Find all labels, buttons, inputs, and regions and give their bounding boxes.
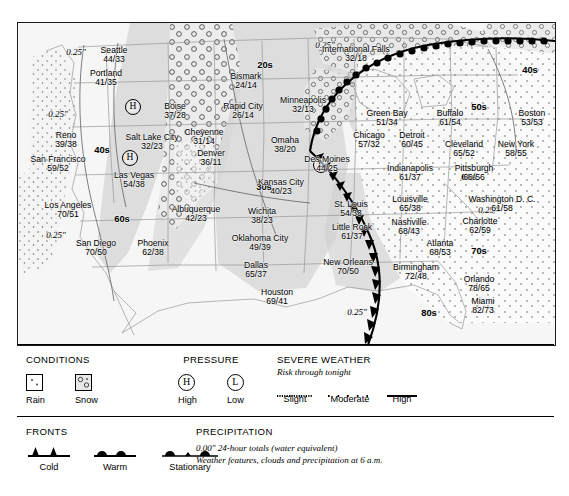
temp-band-label: 50s xyxy=(471,101,487,112)
temp-band-label: 60s xyxy=(114,213,130,224)
city-label: New Orleans70/50 xyxy=(323,258,373,277)
city-temperatures: 36/11 xyxy=(197,158,225,167)
city-label: Omaha38/20 xyxy=(271,136,299,155)
severe-title: SEVERE WEATHER xyxy=(277,354,417,365)
city-temperatures: 62/38 xyxy=(137,248,168,257)
city-temperatures: 59/52 xyxy=(31,164,86,173)
city-label: Detroit60/45 xyxy=(399,131,424,150)
city-label: Minneapolis32/13 xyxy=(280,96,326,115)
city-temperatures: 54/38 xyxy=(114,180,154,189)
city-label: Kansas City40/23 xyxy=(258,178,304,197)
legend-divider-middle xyxy=(17,416,554,417)
city-temperatures: 44/25 xyxy=(304,164,349,173)
city-label: Rapid City26/14 xyxy=(223,102,263,121)
precip-amount-label: 0.25" xyxy=(46,230,66,240)
city-label: Reno39/38 xyxy=(55,131,77,150)
warm-front-symbol-icon xyxy=(92,444,138,462)
low-label: Low xyxy=(227,395,244,405)
city-temperatures: 78/65 xyxy=(464,284,495,293)
severe-subtitle: Risk through tonight xyxy=(277,367,417,377)
snow-label: Snow xyxy=(75,395,98,405)
pressure-title: PRESSURE xyxy=(178,354,244,365)
city-label: Louisville65/38 xyxy=(392,195,427,214)
city-label: Seattle44/33 xyxy=(101,46,128,65)
city-label: New York58/55 xyxy=(498,140,534,159)
legend-fronts-section: FRONTS Cold xyxy=(26,426,222,472)
city-label: Orlando78/65 xyxy=(464,275,495,294)
city-temperatures: 32/13 xyxy=(280,105,326,114)
city-label: Houston69/41 xyxy=(261,288,293,307)
city-temperatures: 70/50 xyxy=(323,267,373,276)
city-temperatures: 40/23 xyxy=(258,187,304,196)
weather-map-page: H H L 40s 60s 30s 20s 40s 50s 60s 70s 80… xyxy=(0,0,569,496)
legend-item-snow: Snow xyxy=(75,374,98,405)
city-temperatures: 69/41 xyxy=(261,297,293,306)
legend-item-warm-front: Warm xyxy=(92,444,138,472)
city-temperatures: 39/38 xyxy=(55,140,77,149)
city-label: Portland41/35 xyxy=(90,69,122,88)
temp-band-label: 40s xyxy=(94,144,110,155)
city-temperatures: 66/56 xyxy=(455,173,494,182)
cold-front-symbol-icon xyxy=(26,444,72,462)
city-temperatures: 26/14 xyxy=(223,111,263,120)
rain-label: Rain xyxy=(26,395,45,405)
high-label: High xyxy=(178,395,197,405)
legend-precipitation-section: PRECIPITATION 0.00" 24-hour totals (wate… xyxy=(196,426,382,465)
slight-risk-icon xyxy=(277,386,313,394)
moderate-risk-icon xyxy=(324,386,376,394)
city-temperatures: 82/73 xyxy=(472,306,495,315)
city-temperatures: 31/14 xyxy=(184,137,223,146)
city-temperatures: 61/37 xyxy=(332,232,372,241)
city-label: Phoenix62/38 xyxy=(137,239,168,258)
city-temperatures: 44/33 xyxy=(101,55,128,64)
city-temperatures: 37/28 xyxy=(164,111,186,120)
city-label: San Francisco59/52 xyxy=(31,155,86,174)
city-temperatures: 65/52 xyxy=(445,149,483,158)
city-label: Des Moines44/25 xyxy=(304,155,349,174)
city-label: Charlotte62/59 xyxy=(463,217,498,236)
city-temperatures: 65/38 xyxy=(392,204,427,213)
city-label: Washington D. C.61/58 xyxy=(468,195,535,214)
city-label: Salt Lake City32/23 xyxy=(125,133,178,152)
legend-severe-section: SEVERE WEATHER Risk through tonight Slig… xyxy=(277,354,417,404)
city-label: Indianapolis61/37 xyxy=(387,164,433,183)
city-label: Cleveland65/52 xyxy=(445,140,483,159)
map-pressure-high-2: H xyxy=(122,150,138,166)
city-label: Wichita38/23 xyxy=(248,207,276,226)
city-label: Oklahoma City49/39 xyxy=(232,234,288,253)
city-label: Boston53/53 xyxy=(519,109,546,128)
snow-swatch-icon xyxy=(75,374,92,391)
legend-item-high-risk: High xyxy=(387,386,417,404)
city-label: Nashville68/43 xyxy=(392,218,427,237)
city-temperatures: 53/53 xyxy=(519,118,546,127)
city-temperatures: 68/43 xyxy=(392,227,427,236)
city-temperatures: 61/37 xyxy=(387,173,433,182)
precip-amount-label: 0.25" xyxy=(347,307,367,317)
city-temperatures: 68/53 xyxy=(427,248,454,257)
high-pressure-icon: H xyxy=(178,374,195,391)
city-label: Atlanta68/53 xyxy=(427,239,454,258)
precip-amount-label: 0.25" xyxy=(48,109,68,119)
legend-item-low: L Low xyxy=(227,374,244,405)
precipitation-line-1: 0.00" 24-hour totals (water equivalent) xyxy=(196,443,382,453)
city-temperatures: 61/54 xyxy=(437,118,464,127)
city-temperatures: 42/23 xyxy=(172,214,221,223)
city-label: Bismark24/14 xyxy=(230,72,261,91)
temp-band-label: 70s xyxy=(471,245,487,256)
city-label: Buffalo61/54 xyxy=(437,109,464,128)
legend-divider-top xyxy=(17,344,554,345)
city-label: Los Angeles70/51 xyxy=(45,201,92,220)
city-temperatures: 24/14 xyxy=(230,81,261,90)
legend-item-high: H High xyxy=(178,374,197,405)
legend-conditions-section: CONDITIONS Rain xyxy=(26,354,98,405)
weather-map[interactable]: H H L 40s 60s 30s 20s 40s 50s 60s 70s 80… xyxy=(17,22,556,346)
legend-pressure-section: PRESSURE H High L Low xyxy=(178,354,244,405)
precip-amount-label: 0.25" xyxy=(66,47,86,57)
city-temperatures: 72/48 xyxy=(393,272,439,281)
city-label: Denver36/11 xyxy=(197,149,225,168)
city-temperatures: 51/34 xyxy=(366,118,407,127)
warm-label: Warm xyxy=(92,462,138,472)
city-label: Las Vegas54/38 xyxy=(114,171,154,190)
city-label: Boise37/28 xyxy=(164,102,186,121)
city-temperatures: 38/20 xyxy=(271,145,299,154)
